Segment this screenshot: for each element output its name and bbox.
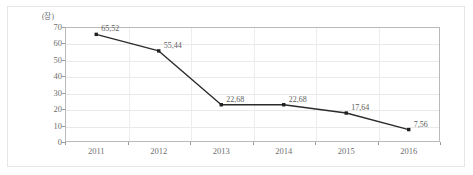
data-point-marker: [407, 128, 410, 131]
x-axis-tick-mark: [378, 142, 379, 145]
x-axis-tick-label: 2012: [150, 146, 167, 156]
y-axis-tick-mark: [62, 76, 65, 77]
data-point-marker: [282, 103, 285, 106]
y-axis-tick-label: 10: [54, 121, 63, 131]
x-axis-tick-mark: [128, 142, 129, 145]
x-axis-tick-label: 2014: [275, 146, 292, 156]
data-point-marker: [220, 103, 223, 106]
x-axis-tick-mark: [190, 142, 191, 145]
chart-screenshot: (장) 010203040506070 65,5255,4422,6822,68…: [0, 0, 473, 175]
x-axis-tick-labels: 201120122013201420152016: [65, 146, 440, 160]
data-point-value-label: 55,44: [164, 40, 182, 49]
data-point-value-label: 65,52: [101, 24, 119, 33]
y-axis-tick-label: 70: [54, 22, 63, 32]
data-point-value-label: 22,68: [226, 94, 244, 103]
y-axis-tick-labels: 010203040506070: [40, 27, 62, 142]
x-axis-tick-mark: [253, 142, 254, 145]
y-axis-tick-mark: [62, 109, 65, 110]
y-axis-tick-label: 40: [54, 71, 63, 81]
data-point-value-label: 7,56: [414, 119, 428, 128]
y-axis-tick-mark: [62, 93, 65, 94]
y-axis-unit-label: (장): [42, 10, 54, 21]
data-point-marker: [95, 33, 98, 36]
x-axis-tick-label: 2013: [213, 146, 230, 156]
data-point-value-label: 22,68: [289, 94, 307, 103]
data-point-marker: [345, 111, 348, 114]
x-axis-tick-mark: [440, 142, 441, 145]
y-axis-tick-mark: [62, 43, 65, 44]
x-axis-tick-label: 2011: [88, 146, 105, 156]
x-axis-tick-label: 2016: [400, 146, 417, 156]
y-axis-tick-mark: [62, 126, 65, 127]
y-axis-tick-label: 20: [54, 104, 63, 114]
y-axis-tick-label: 60: [54, 38, 63, 48]
x-axis-tick-mark: [65, 142, 66, 145]
data-series-line: [65, 27, 440, 142]
y-axis-tick-mark: [62, 27, 65, 28]
series-polyline: [96, 34, 409, 129]
data-point-value-label: 17,64: [351, 103, 369, 112]
x-axis-tick-label: 2015: [338, 146, 355, 156]
y-axis-tick-mark: [62, 60, 65, 61]
y-axis-tick-label: 50: [54, 55, 63, 65]
y-axis-tick-label: 30: [54, 88, 63, 98]
x-axis-tick-mark: [315, 142, 316, 145]
data-point-marker: [157, 49, 160, 52]
